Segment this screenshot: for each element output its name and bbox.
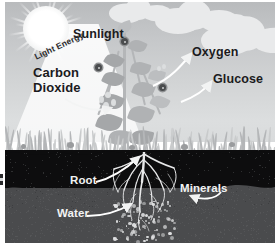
rock-icon — [129, 145, 135, 150]
label-minerals: Minerals — [180, 182, 227, 194]
label-glucose: Glucose — [213, 72, 263, 86]
water-droplet-cluster — [105, 194, 185, 243]
diagram-canvas: Sunlight Light Energy Carbon Dioxide Oxy… — [5, 2, 275, 243]
rock-icon — [229, 142, 235, 147]
rock-icon — [181, 144, 188, 150]
label-carbon-dioxide: Carbon Dioxide — [33, 66, 81, 95]
flower-icon — [95, 64, 102, 71]
photosynthesis-diagram: Sunlight Light Energy Carbon Dioxide Oxy… — [0, 0, 277, 245]
label-root: Root — [70, 174, 97, 186]
label-oxygen: Oxygen — [192, 45, 238, 59]
rock-icon — [67, 142, 74, 148]
label-water: Water — [57, 207, 89, 219]
rock-icon — [21, 144, 26, 149]
label-carbon-dioxide-line1: Carbon — [33, 66, 81, 81]
label-carbon-dioxide-line2: Dioxide — [33, 81, 81, 96]
edge-artifact — [0, 174, 3, 185]
flower-icon — [159, 84, 166, 91]
